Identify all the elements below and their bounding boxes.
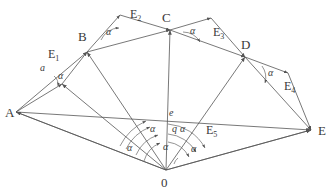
segment-apex1-to-b <box>62 52 87 84</box>
segment-a-to-apex1 <box>16 84 62 112</box>
angle-arc-o-6 <box>168 142 189 157</box>
scalar-label-e: e <box>169 108 173 118</box>
angle-label-alpha-9: α <box>191 144 196 154</box>
scalar-label-a: a <box>40 63 45 73</box>
angle-arc-at-d <box>262 66 266 83</box>
radius-o-to-e <box>166 130 311 170</box>
edge-label-e3: E3 <box>213 26 224 41</box>
segment-b-to-apex2 <box>87 15 120 52</box>
angle-label-alpha-1: α <box>58 71 63 81</box>
angle-label-alpha-6: α <box>180 124 185 134</box>
angle-label-alpha-5: α <box>150 124 155 134</box>
angle-arc-group <box>54 28 266 164</box>
edge-label-e2: E2 <box>130 8 141 23</box>
angle-label-alpha-8: α <box>163 142 168 152</box>
vertex-label-c: C <box>162 11 171 24</box>
segment-d-to-e <box>245 57 311 130</box>
angle-arc-o-1 <box>136 135 158 155</box>
scalar-label-q: q <box>172 124 177 134</box>
chord-a-to-e <box>16 112 311 130</box>
angle-label-alpha-3: α <box>190 26 195 36</box>
segment-d-to-apex4 <box>245 57 288 73</box>
vertex-label-a: A <box>5 106 14 119</box>
angle-label-alpha-4: α <box>268 68 273 78</box>
radius-o-to-d <box>166 57 245 170</box>
angle-label-alpha-7: α <box>127 143 132 153</box>
edge-label-e1: E1 <box>48 48 59 63</box>
angle-arc-o-8 <box>174 158 178 164</box>
vertex-label-o: 0 <box>161 176 168 189</box>
edge-label-e4: E4 <box>284 80 295 95</box>
angle-label-alpha-2: α <box>106 27 111 37</box>
vertex-label-e: E <box>318 124 326 137</box>
vertex-label-d: D <box>241 38 250 51</box>
radius-o-to-a <box>16 112 166 170</box>
vertex-label-b: B <box>78 30 87 43</box>
segment-b-to-c <box>87 30 170 52</box>
edge-label-e5: E5 <box>206 124 217 139</box>
geometry-diagram <box>0 0 332 196</box>
